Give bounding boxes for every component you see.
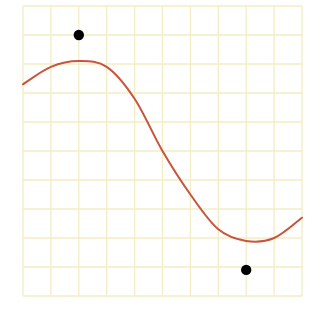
data-point [74,30,84,40]
data-point [241,265,251,275]
plot-area [0,0,324,318]
